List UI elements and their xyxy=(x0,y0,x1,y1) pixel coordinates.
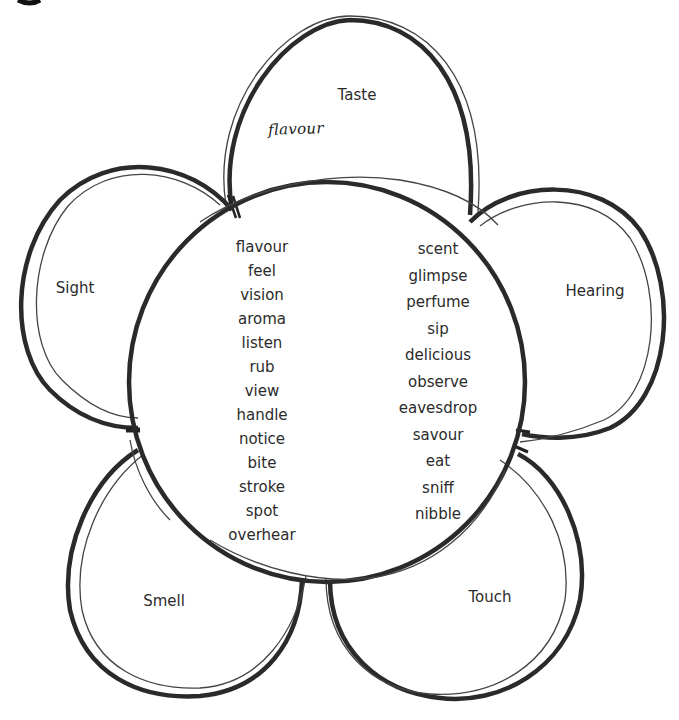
word-bank-word: overhear xyxy=(228,523,295,547)
word-bank-word: observe xyxy=(408,369,468,396)
word-bank-word: feel xyxy=(248,259,276,283)
word-bank-word: view xyxy=(245,379,280,403)
word-bank-word: spot xyxy=(246,499,278,523)
word-bank-word: eat xyxy=(426,448,450,475)
word-bank-word: vision xyxy=(240,283,284,307)
word-bank-word: sniff xyxy=(422,475,454,502)
petal-label-smell: Smell xyxy=(143,592,185,610)
word-bank-word: handle xyxy=(236,403,287,427)
word-bank-left-column: flavour feel vision aroma listen rub vie… xyxy=(214,235,310,547)
word-bank-word: sip xyxy=(427,316,449,343)
petal-taste-outline xyxy=(224,16,479,218)
word-bank-word: rub xyxy=(249,355,274,379)
word-bank-word: glimpse xyxy=(408,263,467,290)
flower-diagram xyxy=(0,0,679,720)
petal-label-touch: Touch xyxy=(468,588,511,606)
petal-sight-outline xyxy=(21,167,232,430)
petal-hearing-outline xyxy=(470,190,664,452)
word-bank-word: listen xyxy=(242,331,283,355)
petal-label-taste: Taste xyxy=(338,86,377,104)
word-bank-word: notice xyxy=(239,427,285,451)
word-bank-word: flavour xyxy=(236,235,288,259)
word-bank-word: bite xyxy=(248,451,277,475)
petal-label-sight: Sight xyxy=(56,279,95,297)
word-bank-word: eavesdrop xyxy=(399,395,477,422)
corner-mark xyxy=(18,0,40,3)
word-bank-word: delicious xyxy=(405,342,471,369)
word-bank-right-column: scent glimpse perfume sip delicious obse… xyxy=(386,236,490,528)
word-bank-word: aroma xyxy=(238,307,286,331)
word-bank-word: stroke xyxy=(239,475,285,499)
word-bank-word: perfume xyxy=(406,289,470,316)
petal-answer-taste: flavour xyxy=(268,119,324,139)
word-bank-word: scent xyxy=(418,236,459,263)
word-bank-word: nibble xyxy=(415,501,461,528)
petal-label-hearing: Hearing xyxy=(565,282,624,300)
word-bank-word: savour xyxy=(413,422,464,449)
